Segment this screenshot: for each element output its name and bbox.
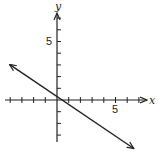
- axis-ticks: [10, 18, 139, 135]
- x-axis-label: x: [149, 94, 156, 107]
- x-tick-label-5: 5: [112, 103, 118, 115]
- y-axis-label: y: [54, 0, 62, 13]
- coordinate-plane: x y 5 5: [0, 0, 159, 165]
- y-tick-label-5: 5: [46, 35, 52, 47]
